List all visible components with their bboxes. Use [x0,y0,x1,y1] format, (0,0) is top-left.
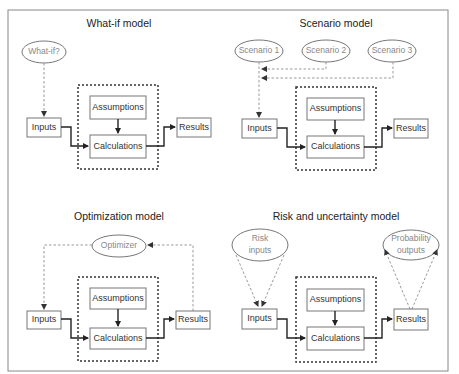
panel-title: Optimization model [74,210,164,222]
flow-arrow [61,127,88,146]
scenario-1-label: Scenario 1 [239,45,280,55]
panel-title: What-if model [87,17,152,29]
results-label: Results [178,314,209,324]
inputs-label: Inputs [247,313,272,323]
probability-outputs-label-line2: outputs [397,245,425,255]
results-label: Results [396,314,427,324]
panel-risk: Risk and uncertainty model Risk inputs P… [232,210,439,362]
dashed-arrow [236,255,258,306]
flow-arrow [146,319,174,338]
probability-outputs-label-line1: Probability [391,233,431,243]
flow-arrow [364,319,392,338]
assumptions-label: Assumptions [310,294,362,304]
flow-arrow [61,319,88,338]
panel-whatif: What-if model What-if? Inputs Assumption… [22,17,211,169]
risk-inputs-label-line2: inputs [249,245,272,255]
results-label: Results [396,123,427,133]
whatif-ellipse-label: What-if? [28,46,60,56]
assumptions-label: Assumptions [310,103,362,113]
dashed-arrow [262,62,326,69]
calculations-label: Calculations [93,141,143,151]
results-label: Results [179,122,210,132]
calculations-label: Calculations [311,141,361,151]
panel-title: Scenario model [300,17,373,29]
assumptions-label: Assumptions [92,293,144,303]
risk-inputs-label-line1: Risk [252,233,269,243]
flow-arrow [364,128,392,147]
optimizer-label: Optimizer [101,240,138,250]
modeling-types-diagram: What-if model What-if? Inputs Assumption… [0,0,459,374]
dashed-arrow [262,62,393,78]
scenario-2-label: Scenario 2 [306,45,347,55]
flow-arrow [146,127,175,146]
inputs-label: Inputs [32,314,57,324]
panel-optimization: Optimization model Optimizer Inputs Assu… [27,210,210,361]
diagram-frame [8,10,448,371]
inputs-label: Inputs [247,123,272,133]
dashed-arrow [148,245,193,311]
assumptions-label: Assumptions [92,102,144,112]
panel-scenario: Scenario model Scenario 1 Scenario 2 Sce… [235,17,428,170]
dashed-arrow [262,255,284,306]
panel-title: Risk and uncertainty model [273,210,400,222]
flow-arrow [277,319,305,338]
dashed-arrow [44,245,92,309]
calculations-label: Calculations [311,333,361,343]
scenario-3-label: Scenario 3 [372,45,413,55]
inputs-label: Inputs [32,122,57,132]
calculations-label: Calculations [93,333,143,343]
flow-arrow [277,128,305,147]
